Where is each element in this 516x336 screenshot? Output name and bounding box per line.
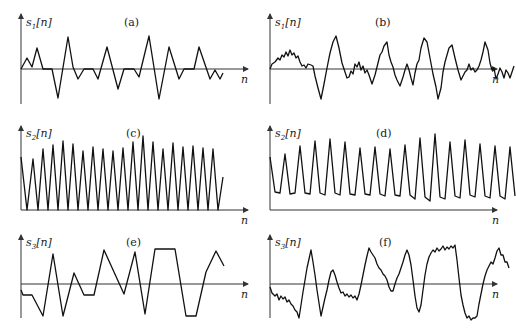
y-axis-label: s2[n] xyxy=(275,127,302,142)
y-axis-label: s3[n] xyxy=(26,236,53,251)
y-axis-label: s1[n] xyxy=(275,16,302,31)
signal-line xyxy=(270,134,515,201)
y-axis-label: s1[n] xyxy=(26,16,53,31)
y-axis-label: s2[n] xyxy=(26,127,53,142)
x-axis-label: n xyxy=(492,214,499,227)
panel-e: s3[n] (e) n xyxy=(21,235,248,318)
x-axis-label: n xyxy=(241,288,248,301)
panel-f: s3[n] (f) n xyxy=(270,235,509,320)
panel-a: s1[n] (a) n xyxy=(21,14,248,104)
panel-tag: (d) xyxy=(376,127,392,140)
signal-line xyxy=(270,36,514,99)
signal-line xyxy=(21,36,223,99)
figure-canvas: s1[n] (a) n s1[n] (b) n s2[n] (c) n s2[n… xyxy=(0,0,516,336)
panel-tag: (f) xyxy=(379,236,392,249)
panel-tag: (c) xyxy=(126,127,141,140)
x-axis-label: n xyxy=(241,73,248,86)
signal-line xyxy=(21,136,223,210)
panel-d: s2[n] (d) n xyxy=(270,126,515,227)
y-axis-label: s3[n] xyxy=(275,236,302,251)
signal-line xyxy=(21,249,224,316)
panel-tag: (a) xyxy=(124,16,139,29)
x-axis-label: n xyxy=(492,288,499,301)
x-axis-label: n xyxy=(241,214,248,227)
panel-tag: (b) xyxy=(375,16,391,29)
panel-tag: (e) xyxy=(126,236,141,249)
panel-b: s1[n] (b) n xyxy=(270,14,514,104)
signal-line xyxy=(270,245,509,320)
panel-c: s2[n] (c) n xyxy=(21,126,248,227)
